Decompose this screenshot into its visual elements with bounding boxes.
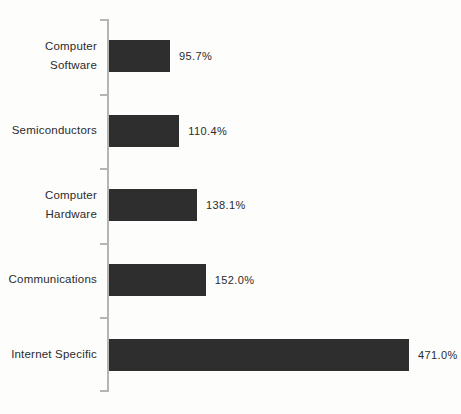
- bar-row: Semiconductors110.4%: [0, 94, 461, 169]
- value-label: 471.0%: [418, 349, 458, 361]
- value-label: 152.0%: [215, 274, 255, 286]
- bar-row: Computer Software95.7%: [0, 19, 461, 94]
- value-label: 138.1%: [206, 199, 246, 211]
- bar: [109, 264, 206, 296]
- bar: [109, 339, 409, 371]
- category-label: Computer Software: [0, 37, 109, 76]
- bar-rows: Computer Software95.7%Semiconductors110.…: [0, 19, 461, 392]
- bar-zone: 471.0%: [109, 339, 461, 371]
- bar-zone: 110.4%: [109, 115, 461, 147]
- bar-row: Communications152.0%: [0, 243, 461, 318]
- bar-zone: 138.1%: [109, 189, 461, 221]
- bar-zone: 95.7%: [109, 40, 461, 72]
- category-label: Computer Hardware: [0, 186, 109, 225]
- value-label: 110.4%: [188, 125, 227, 137]
- category-label: Semiconductors: [0, 121, 109, 141]
- plot-area: Computer Software95.7%Semiconductors110.…: [0, 19, 461, 392]
- bar-row: Internet Specific471.0%: [0, 317, 461, 392]
- bar: [109, 40, 170, 72]
- category-label: Internet Specific: [0, 345, 109, 365]
- category-label: Communications: [0, 270, 109, 290]
- value-label: 95.7%: [179, 50, 212, 62]
- bar-chart: Computer Software95.7%Semiconductors110.…: [0, 0, 461, 414]
- bar-zone: 152.0%: [109, 264, 461, 296]
- bar: [109, 115, 179, 147]
- bar: [109, 189, 197, 221]
- bar-row: Computer Hardware138.1%: [0, 168, 461, 243]
